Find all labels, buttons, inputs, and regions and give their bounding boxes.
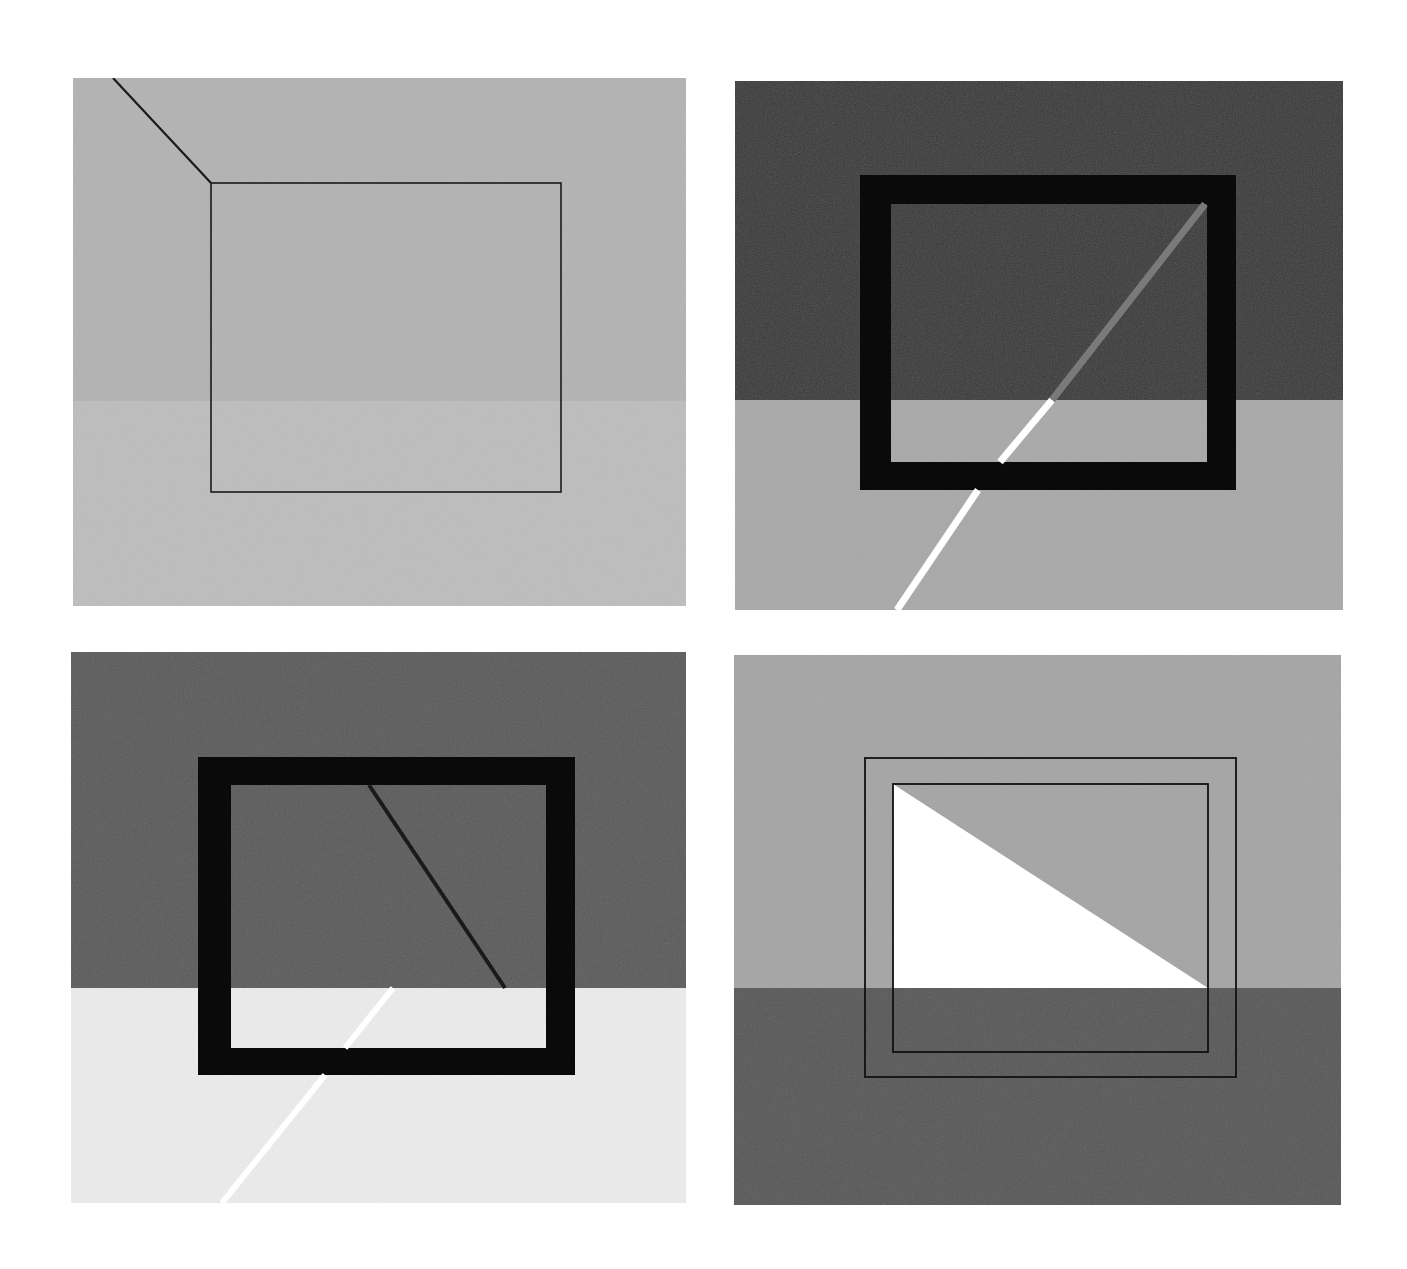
panel-top-right <box>735 81 1343 610</box>
panel-bottom-left <box>71 652 686 1203</box>
upper-field <box>735 81 1343 400</box>
panel-bottom-left-content <box>71 652 686 1203</box>
panel-bottom-right-content <box>734 655 1341 1205</box>
panel-top-left-content <box>73 78 686 606</box>
panels-group <box>71 78 1343 1205</box>
lower-field <box>73 401 686 606</box>
panel-top-left-background <box>73 78 686 606</box>
lower-field <box>735 400 1343 610</box>
panel-top-right-content <box>735 81 1343 610</box>
lower-field <box>71 988 686 1203</box>
figure-canvas <box>0 0 1407 1269</box>
panel-top-left <box>73 78 686 606</box>
panel-bottom-left-background <box>71 652 686 1203</box>
panel-top-right-background <box>735 81 1343 610</box>
figure-stage <box>0 0 1407 1269</box>
upper-field <box>71 652 686 988</box>
lower-field <box>734 988 1341 1205</box>
panel-bottom-right <box>734 655 1341 1205</box>
upper-field <box>73 78 686 401</box>
